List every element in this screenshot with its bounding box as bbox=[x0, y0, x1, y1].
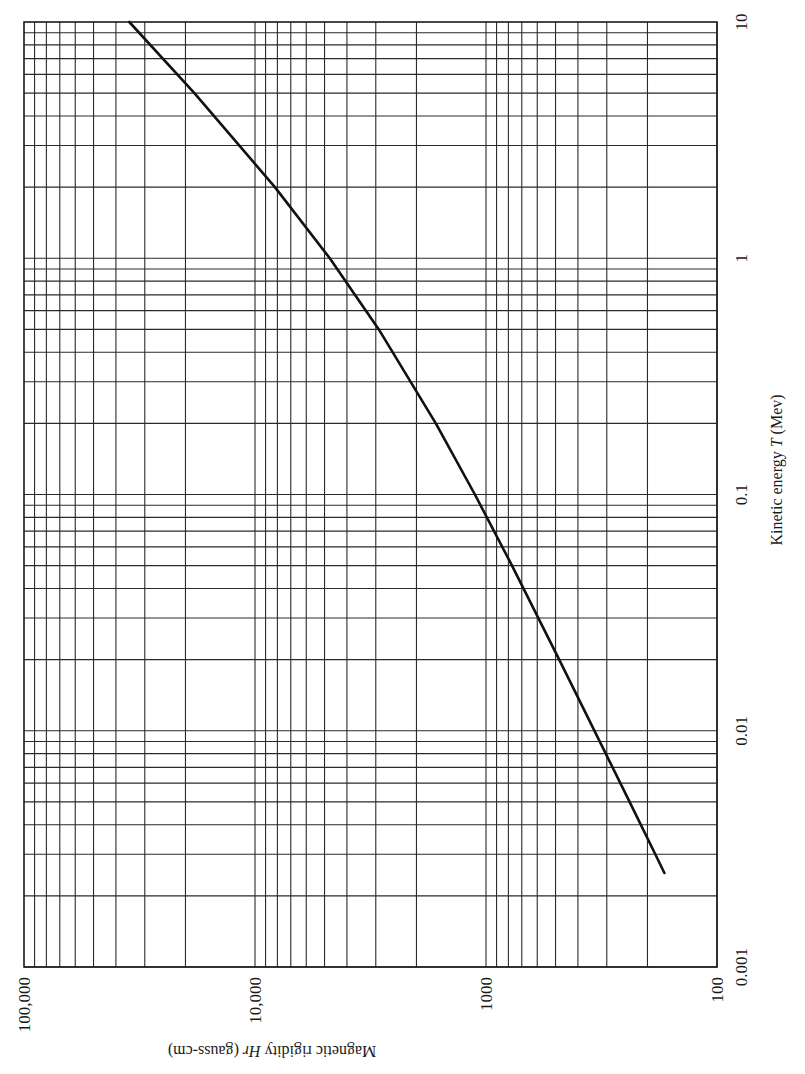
energy-tick-label: 1 bbox=[732, 254, 751, 263]
rigidity-curve bbox=[129, 22, 664, 873]
energy-tick-label: 0.01 bbox=[732, 716, 751, 746]
energy-axis-title: Kinetic energy T (Mev) bbox=[768, 394, 786, 545]
energy-tick-label: 0.001 bbox=[732, 948, 751, 986]
rigidity-vs-energy-chart: 0.0010.010.1110 100100010,000100,000 Kin… bbox=[0, 0, 805, 1074]
energy-tick-label: 10 bbox=[732, 14, 751, 31]
rigidity-tick-label: 10,000 bbox=[246, 977, 265, 1024]
rigidity-tick-label: 1000 bbox=[477, 977, 496, 1011]
rigidity-tick-label: 100 bbox=[708, 977, 727, 1003]
rigidity-axis-title: Magnetic rigidity Hr (gauss-cm) bbox=[168, 1042, 376, 1060]
grid-lines bbox=[24, 22, 717, 967]
rigidity-tick-label: 100,000 bbox=[15, 977, 34, 1032]
energy-tick-label: 0.1 bbox=[732, 484, 751, 505]
energy-axis-tick-labels: 0.0010.010.1110 bbox=[732, 14, 751, 987]
rigidity-axis-tick-labels: 100100010,000100,000 bbox=[15, 977, 727, 1032]
